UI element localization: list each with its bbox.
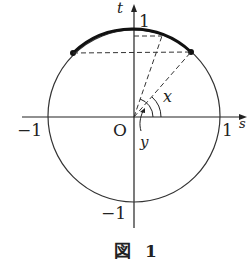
- angle-x-arc: [152, 97, 161, 117]
- s-axis-label: s: [239, 117, 246, 130]
- origin-label: O: [113, 122, 127, 139]
- angle-y-label: y: [140, 135, 148, 150]
- chord-dashed: [73, 52, 191, 53]
- radius-x-dashed: [134, 52, 191, 117]
- s-tick-1: 1: [222, 122, 233, 139]
- s-tick-neg1: −1: [17, 122, 42, 139]
- angle-x-label: x: [163, 89, 172, 105]
- t-axis-arrow-icon: [131, 4, 137, 12]
- figure-caption: 図 1: [114, 243, 161, 260]
- t-axis-label: t: [117, 1, 123, 16]
- t-tick-neg1: −1: [101, 205, 126, 222]
- highlighted-arc: [73, 29, 191, 53]
- t-tick-1: 1: [139, 13, 150, 30]
- angle-y-pointer: [140, 111, 143, 131]
